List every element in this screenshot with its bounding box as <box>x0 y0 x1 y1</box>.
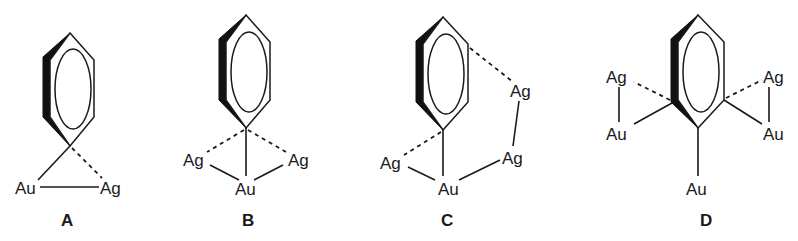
atom-ag: Ag <box>606 68 627 87</box>
bond-c-ag-dashed <box>634 82 670 100</box>
structure-label-d: D <box>700 211 712 230</box>
structure-label-b: B <box>242 211 254 230</box>
structure-b: Ag Ag Au B <box>183 15 309 230</box>
atom-ag: Ag <box>510 82 531 101</box>
atom-ag: Ag <box>502 149 523 168</box>
bond-ag-ag <box>513 101 519 146</box>
bond-c-ag-dashed <box>72 148 102 178</box>
atom-au: Au <box>235 180 256 199</box>
structure-a: Au Ag A <box>15 33 121 230</box>
benzene-ring-icon <box>416 17 468 130</box>
atom-ag: Ag <box>288 151 309 170</box>
atom-au: Au <box>763 125 784 144</box>
atom-ag: Ag <box>183 151 204 170</box>
structure-label-a: A <box>61 211 73 230</box>
bond-ag-au <box>408 167 435 180</box>
bond-ag-au <box>210 165 239 180</box>
bond-au-ag <box>254 165 283 180</box>
bond-c-ag-dashed <box>404 132 441 155</box>
bond-c-au <box>724 100 762 124</box>
bond-c-ag-dashed <box>248 130 286 152</box>
atom-au: Au <box>438 180 459 199</box>
atom-ag: Ag <box>763 68 784 87</box>
benzene-ring-icon <box>671 15 724 128</box>
atom-au: Au <box>686 180 707 199</box>
structure-c: Ag Ag Ag Au C <box>380 17 531 230</box>
bond-c-ag-dashed <box>726 80 762 98</box>
coordination-diagram: Au Ag A Ag Ag Au B Ag Ag Ag <box>0 0 798 241</box>
bond-c-au <box>38 146 70 180</box>
bond-c-au <box>634 103 672 124</box>
bond-c-ag-dashed <box>207 130 244 152</box>
structure-d: Ag Au Ag Au Au D <box>606 15 784 230</box>
benzene-ring-icon <box>43 33 94 146</box>
structure-label-c: C <box>441 211 453 230</box>
atom-au: Au <box>15 179 36 198</box>
bond-au-ag <box>459 160 500 180</box>
atom-au: Au <box>606 125 627 144</box>
atom-ag: Ag <box>100 179 121 198</box>
bond-c-ag-dashed <box>470 48 513 82</box>
benzene-ring-icon <box>219 15 270 128</box>
atom-ag: Ag <box>380 154 401 173</box>
